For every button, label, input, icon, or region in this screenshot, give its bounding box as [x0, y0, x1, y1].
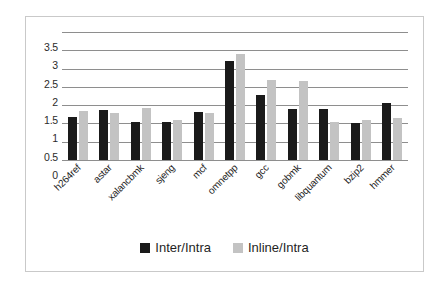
y-axis-tick-label: 1 — [52, 132, 58, 144]
chart-card: 00.511.522.533.5 h264refastarxalancbmksj… — [25, 16, 424, 272]
plot-area — [62, 32, 408, 160]
x-axis-label-omnetpp: omnetpp — [205, 162, 239, 196]
x-axis-label-bzip2: bzip2 — [342, 162, 366, 186]
bar-group — [156, 32, 187, 160]
bar-bzip2-inter — [351, 123, 360, 160]
legend-label: Inline/Intra — [248, 240, 309, 255]
x-axis: h264refastarxalancbmksjengmcfomnetppgccg… — [62, 160, 408, 230]
x-axis-label-sjeng: sjeng — [153, 162, 177, 186]
x-axis-label-gcc: gcc — [253, 162, 271, 180]
bar-h264ref-inter — [68, 117, 77, 160]
bar-mcf-inter — [194, 112, 203, 160]
y-axis-tick-label: 0.5 — [44, 151, 58, 163]
bar-sjeng-inter — [162, 122, 171, 160]
legend-item-inline-intra[interactable]: Inline/Intra — [233, 240, 309, 255]
bar-xalancbmk-inline — [142, 108, 151, 160]
legend-label: Inter/Intra — [155, 240, 211, 255]
bar-gcc-inline — [267, 80, 276, 160]
bar-omnetpp-inline — [236, 54, 245, 160]
bar-group — [251, 32, 282, 160]
y-axis-tick-label: 2 — [52, 96, 58, 108]
y-axis-tick-label: 3.5 — [44, 41, 58, 53]
x-axis-label-gobmk: gobmk — [274, 162, 302, 190]
bar-sjeng-inline — [173, 120, 182, 160]
bar-gobmk-inline — [299, 81, 308, 160]
x-axis-label-astar: astar — [91, 162, 114, 185]
bar-libquantum-inline — [330, 122, 339, 160]
legend-swatch-icon — [140, 243, 150, 253]
bar-group — [219, 32, 250, 160]
bar-group — [62, 32, 93, 160]
bar-hmmer-inline — [393, 118, 402, 160]
bar-astar-inter — [99, 110, 108, 160]
x-axis-label-mcf: mcf — [190, 162, 209, 181]
y-axis-tick-label: 3 — [52, 59, 58, 71]
bar-mcf-inline — [205, 113, 214, 160]
bar-xalancbmk-inter — [131, 122, 140, 160]
y-axis-tick-label: 2.5 — [44, 78, 58, 90]
bars-layer — [62, 32, 408, 160]
bar-group — [125, 32, 156, 160]
bar-group — [314, 32, 345, 160]
bar-gobmk-inter — [288, 109, 297, 160]
bar-bzip2-inline — [362, 120, 371, 160]
chart-legend: Inter/IntraInline/Intra — [26, 240, 423, 255]
bar-group — [345, 32, 376, 160]
bar-hmmer-inter — [382, 103, 391, 160]
y-axis-tick-label: 1.5 — [44, 114, 58, 126]
bar-group — [282, 32, 313, 160]
bar-group — [188, 32, 219, 160]
legend-swatch-icon — [233, 243, 243, 253]
bar-h264ref-inline — [79, 111, 88, 160]
bar-astar-inline — [110, 113, 119, 160]
x-axis-label-hmmer: hmmer — [368, 162, 397, 191]
bar-group — [93, 32, 124, 160]
bar-group — [377, 32, 408, 160]
bar-gcc-inter — [256, 95, 265, 160]
bar-libquantum-inter — [319, 109, 328, 160]
legend-item-inter-intra[interactable]: Inter/Intra — [140, 240, 211, 255]
bar-omnetpp-inter — [225, 61, 234, 160]
y-axis: 00.511.522.533.5 — [26, 32, 60, 160]
